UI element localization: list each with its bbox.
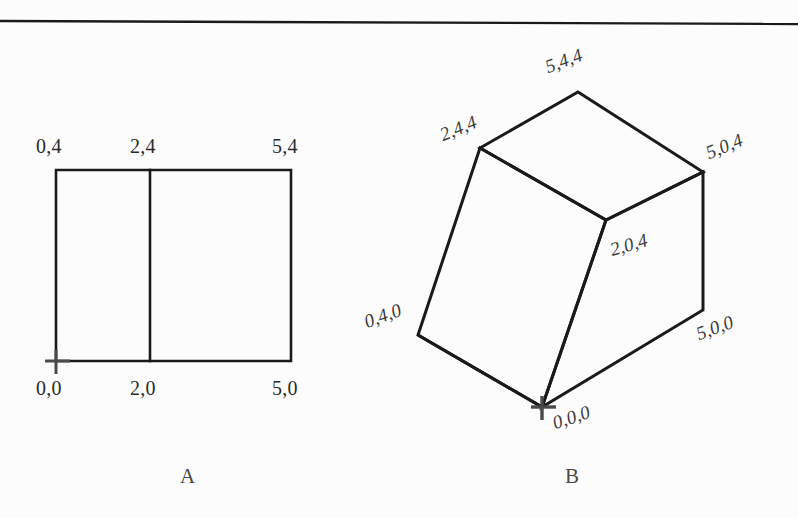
figure-b-slope-face — [418, 148, 606, 407]
figure-a-outer-rectangle — [56, 170, 291, 361]
figure-a-label-2-0: 2,0 — [130, 378, 156, 398]
figure-b-base-edge-left — [418, 335, 542, 407]
figure-b-caption: B — [565, 466, 579, 487]
figure-drawing-canvas — [0, 0, 798, 518]
figure-a-label-2-4: 2,4 — [130, 136, 156, 156]
figure-b-top-face — [480, 92, 703, 220]
figure-a-label-5-4: 5,4 — [272, 136, 298, 156]
figure-a-label-0-0: 0,0 — [36, 378, 62, 398]
figure-a-caption: A — [180, 466, 195, 487]
top-divider-rule — [0, 21, 798, 24]
figure-a-origin-crosshair — [45, 350, 70, 374]
figure-b-geometry — [418, 92, 703, 407]
figure-a-geometry — [56, 170, 291, 361]
figure-a-label-0-4: 0,4 — [36, 136, 62, 156]
figure-page: 0,4 2,4 5,4 0,0 2,0 5,0 5,4,4 2,4,4 5,0,… — [0, 0, 798, 518]
figure-b-right-face — [542, 172, 703, 407]
figure-a-label-5-0: 5,0 — [272, 378, 298, 398]
